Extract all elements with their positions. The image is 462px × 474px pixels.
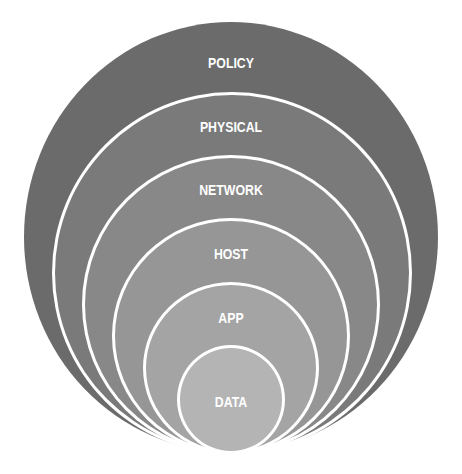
label-host: HOST <box>42 245 421 262</box>
label-physical: PHYSICAL <box>42 118 421 135</box>
label-app: APP <box>42 309 421 326</box>
label-network: NETWORK <box>42 181 421 198</box>
label-data: DATA <box>42 393 421 410</box>
label-policy: POLICY <box>42 54 421 71</box>
